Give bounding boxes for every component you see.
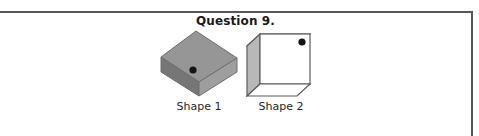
- shapes-figure: Shape 1 Shape 2: [150, 28, 330, 123]
- shape-2-label: Shape 2: [242, 100, 320, 113]
- shape-1-illustration: [158, 30, 240, 100]
- shape-2-dot-icon: [298, 38, 305, 45]
- shape-2-illustration: [245, 32, 315, 102]
- panel-right-rule: [471, 11, 473, 136]
- question-panel: Question 9. Shape 1 Shape 2: [0, 0, 479, 136]
- panel-top-rule: [0, 11, 473, 13]
- shape-1-label: Shape 1: [158, 100, 240, 113]
- page-title: Question 9.: [0, 14, 471, 28]
- shape-1-dot-icon: [189, 66, 196, 73]
